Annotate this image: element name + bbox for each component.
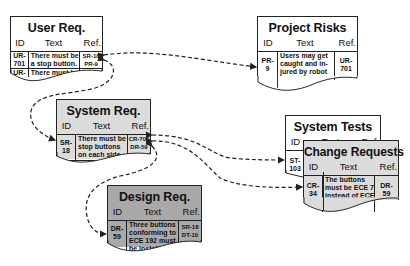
- column-header-id: ID: [258, 37, 278, 51]
- column-header-id: ID: [108, 206, 127, 220]
- column-header-row: ID Text Ref.: [304, 161, 398, 176]
- document-wave-edge: [257, 76, 358, 94]
- column-header-ref: Ref.: [332, 37, 357, 51]
- column-header-text: Text: [29, 37, 78, 51]
- link-ur701-pr9: [104, 53, 256, 67]
- column-header-text: Text: [76, 120, 127, 134]
- column-header-ref: Ref.: [78, 37, 102, 51]
- document-design-req[interactable]: Design Req. ID Text Ref. DR- 59 Three bu…: [107, 185, 202, 247]
- column-header-row: ID Text Ref.: [57, 120, 150, 135]
- row-text: There must be a stop button.: [29, 52, 80, 68]
- document-project-risks[interactable]: Project Risks ID Text Ref. PR- 9 Users m…: [257, 16, 358, 76]
- column-divider: [323, 172, 324, 211]
- document-title: System Tests: [286, 116, 380, 136]
- column-header-row: ID Text Ref.: [108, 206, 201, 221]
- table-row[interactable]: UR- 701 There must be a stop button. SR-…: [11, 52, 102, 68]
- link-sr18-cr34: [152, 141, 302, 187]
- row-id: UR- 701: [11, 52, 29, 68]
- document-system-req[interactable]: System Req. ID Text Ref. SR- 18 There mu…: [56, 99, 151, 159]
- document-wave-edge: [10, 69, 103, 83]
- column-header-id: ID: [286, 136, 305, 150]
- column-header-id: ID: [57, 120, 76, 134]
- document-user-req[interactable]: User Req. ID Text Ref. UR- 701 There mus…: [10, 16, 103, 78]
- column-header-ref: Ref.: [127, 120, 150, 134]
- document-title: User Req.: [11, 17, 102, 37]
- column-header-row: ID Text Ref.: [11, 37, 102, 52]
- column-header-row: ID Text Ref.: [258, 37, 357, 52]
- document-title: System Req.: [57, 100, 150, 120]
- column-header-id: ID: [304, 161, 323, 175]
- document-title: Change Requests: [304, 141, 398, 161]
- document-title: Design Req.: [108, 186, 201, 206]
- document-wave-edge: [107, 240, 202, 256]
- document-wave-edge: [56, 152, 151, 166]
- document-title: Project Risks: [258, 17, 357, 37]
- column-header-ref: Ref.: [178, 206, 201, 220]
- document-change-requests[interactable]: Change Requests ID Text Ref. CR- 34 The …: [303, 140, 399, 200]
- column-header-text: Text: [278, 37, 332, 51]
- link-sr18-st103: [152, 135, 284, 160]
- column-header-text: Text: [323, 161, 374, 175]
- document-wave-edge: [303, 197, 399, 215]
- column-header-text: Text: [127, 206, 178, 220]
- column-header-ref: Ref.: [374, 161, 398, 175]
- column-header-id: ID: [11, 37, 29, 51]
- row-ref: SR-18 PR-9: [80, 52, 102, 68]
